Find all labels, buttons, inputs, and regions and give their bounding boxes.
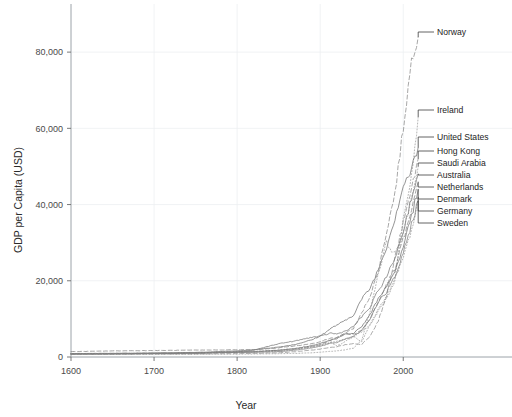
series-label-norway: Norway	[437, 27, 467, 37]
label-leader-line	[418, 174, 434, 175]
series-line-denmark	[71, 189, 418, 353]
y-tick-label: 80,000	[35, 47, 63, 57]
series-label-netherlands: Netherlands	[437, 182, 483, 192]
series-label-germany: Germany	[437, 206, 473, 216]
series-label-hong-kong: Hong Kong	[437, 146, 480, 156]
x-tick-label: 1900	[310, 366, 330, 376]
x-tick-label: 1600	[61, 366, 81, 376]
series-label-saudi-arabia: Saudi Arabia	[437, 158, 486, 168]
label-leader-line	[418, 110, 434, 117]
y-tick-label: 20,000	[35, 276, 63, 286]
label-leader-line	[418, 182, 434, 187]
gdp-per-capita-line-chart: NorwayIrelandUnited StatesHong KongSaudi…	[0, 0, 512, 417]
x-tick-label: 1800	[227, 366, 247, 376]
series-line-netherlands	[71, 182, 418, 352]
label-leader-line	[418, 201, 434, 223]
series-line-sweden	[71, 201, 418, 354]
tick-label-layer: 020,00040,00060,00080,000160017001800190…	[35, 47, 413, 376]
series-line-saudi-arabia	[71, 166, 418, 354]
series-line-germany	[71, 197, 418, 354]
annotation-layer: NorwayIrelandUnited StatesHong KongSaudi…	[418, 27, 488, 228]
series-label-denmark: Denmark	[437, 194, 473, 204]
x-axis-title: Year	[235, 399, 257, 411]
y-tick-label: 0	[58, 352, 63, 362]
series-line-norway	[71, 37, 418, 354]
grid-layer	[71, 4, 512, 357]
series-line-ireland	[71, 117, 418, 354]
label-leader-line	[418, 137, 434, 147]
series-line-australia	[71, 174, 418, 354]
chart-page: NorwayIrelandUnited StatesHong KongSaudi…	[0, 0, 512, 417]
label-leader-line	[418, 189, 434, 199]
y-axis-title: GDP per Capita (USD)	[12, 147, 24, 253]
series-label-australia: Australia	[437, 170, 471, 180]
series-layer	[71, 37, 418, 355]
y-tick-label: 60,000	[35, 124, 63, 134]
x-tick-label: 1700	[144, 366, 164, 376]
label-leader-line	[418, 163, 434, 166]
label-leader-line	[418, 32, 434, 37]
label-leader-line	[418, 151, 434, 159]
y-tick-label: 40,000	[35, 200, 63, 210]
series-label-ireland: Ireland	[437, 105, 463, 115]
series-label-united-states: United States	[437, 132, 489, 142]
x-tick-label: 2000	[393, 366, 413, 376]
series-label-sweden: Sweden	[437, 218, 468, 228]
